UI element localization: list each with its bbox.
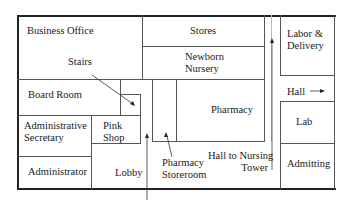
entry-arrowhead-icon bbox=[145, 133, 149, 138]
floor-plan: Business Office Stores Newborn Nursery L… bbox=[0, 0, 351, 200]
room-board-room: Board Room bbox=[28, 89, 82, 101]
stairs-arrowhead-icon bbox=[130, 101, 135, 106]
hall-to-nursing-tower-label: Hall to Nursing Tower bbox=[208, 150, 268, 174]
room-administrator: Administrator bbox=[28, 166, 87, 178]
room-newborn-nursery: Newborn Nursery bbox=[185, 51, 224, 75]
labor-line2: Delivery bbox=[287, 40, 324, 52]
pinkshop-line1: Pink bbox=[103, 120, 125, 132]
room-pharmacy: Pharmacy bbox=[211, 104, 253, 116]
storeroom-line2: Storeroom bbox=[162, 169, 206, 181]
room-admin-secretary: Administrative Secretary bbox=[24, 120, 87, 144]
nursery-line2: Nursery bbox=[185, 63, 224, 75]
hall-tower-line1: Hall to Nursing bbox=[208, 150, 268, 162]
room-admitting: Admitting bbox=[287, 158, 330, 170]
stairs-label: Stairs bbox=[68, 56, 92, 68]
nursery-line1: Newborn bbox=[185, 51, 224, 63]
labor-line1: Labor & bbox=[287, 28, 324, 40]
pinkshop-line2: Shop bbox=[103, 132, 125, 144]
room-pharmacy-storeroom: Pharmacy Storeroom bbox=[162, 157, 206, 181]
room-stores: Stores bbox=[142, 25, 264, 37]
storeroom-pointer-line bbox=[167, 136, 172, 157]
hall-tower-arrowhead-icon bbox=[270, 38, 274, 43]
hall-tower-line2: Tower bbox=[208, 162, 268, 174]
room-business-office: Business Office bbox=[27, 25, 94, 37]
room-lab: Lab bbox=[296, 116, 312, 128]
room-pink-shop: Pink Shop bbox=[103, 120, 125, 144]
room-labor-delivery: Labor & Delivery bbox=[287, 28, 324, 52]
hall-arrow-right-icon bbox=[320, 89, 325, 93]
secretary-line1: Administrative bbox=[24, 120, 87, 132]
storeroom-arrowhead-icon bbox=[164, 132, 168, 137]
room-lobby: Lobby bbox=[115, 167, 142, 179]
secretary-line2: Secretary bbox=[24, 132, 87, 144]
storeroom-line1: Pharmacy bbox=[162, 157, 206, 169]
hall-label: Hall bbox=[287, 86, 305, 98]
stairs-pointer-line bbox=[92, 75, 133, 104]
